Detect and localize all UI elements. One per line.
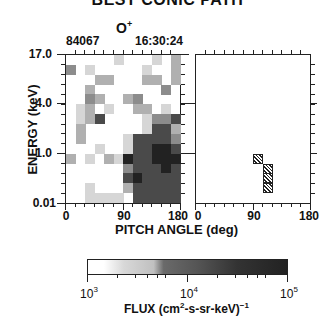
- y-tick-4: 4.0: [4, 96, 52, 110]
- y-minor-tick: [61, 94, 65, 95]
- heatmap-cell: [133, 173, 143, 183]
- x-minor-tick: [84, 50, 85, 54]
- y-minor-tick: [61, 163, 65, 164]
- y-minor-tick: [61, 173, 65, 174]
- heatmap-cell: [161, 124, 171, 134]
- x-minor-tick: [94, 204, 95, 207]
- heatmap-cell: [142, 183, 152, 193]
- x-minor-tick: [103, 204, 104, 207]
- y-minor-tick: [181, 114, 185, 115]
- y-major-tick: [57, 203, 65, 204]
- heatmap-cell: [104, 154, 114, 164]
- x-minor-tick: [233, 50, 234, 54]
- heatmap-cell: [152, 55, 162, 65]
- heatmap-cell: [152, 144, 162, 154]
- heatmap-cell: [161, 173, 171, 183]
- heatmap-cell: [104, 75, 114, 85]
- heatmap-cell: [85, 183, 95, 193]
- heatmap-cell: [152, 173, 162, 183]
- heatmap-cell: [142, 124, 152, 134]
- y-major-tick: [181, 54, 189, 55]
- heatmap-cell: [85, 104, 95, 114]
- heatmap-cell: [104, 104, 114, 114]
- colorbar-label-1e3: 103: [80, 285, 98, 301]
- time-stamp: 16:30:24: [135, 34, 183, 48]
- date-code: 84067: [66, 34, 99, 48]
- y-minor-tick: [311, 104, 315, 105]
- y-minor-tick: [61, 193, 65, 194]
- heatmap-cell: [133, 144, 143, 154]
- x-minor-tick: [243, 50, 244, 54]
- heatmap-cell: [171, 173, 181, 183]
- heatmap-cell: [161, 114, 171, 124]
- x-minor-tick: [262, 204, 263, 207]
- heatmap-cell: [95, 75, 105, 85]
- x-minor-tick: [262, 50, 263, 54]
- x-tick-90-left: 90: [117, 209, 130, 223]
- x-minor-tick: [84, 204, 85, 207]
- y-minor-tick: [61, 153, 65, 154]
- heatmap-cell: [123, 173, 133, 183]
- heatmap-cell: [171, 164, 181, 174]
- cb-base: 10: [180, 287, 193, 301]
- heatmap-cell: [66, 154, 76, 164]
- heatmap-cell: [76, 134, 86, 144]
- heatmap-cell: [133, 193, 143, 203]
- colorbar-title: FLUX (cm2-s-sr-keV)−1: [124, 301, 249, 316]
- x-minor-tick: [170, 204, 171, 207]
- heatmap-cell: [142, 114, 152, 124]
- y-minor-tick: [311, 163, 315, 164]
- conic-path-cell: [263, 164, 273, 174]
- y-minor-tick: [181, 104, 185, 105]
- y-minor-tick: [311, 64, 315, 65]
- heatmap-cell: [152, 75, 162, 85]
- y-minor-tick: [61, 104, 65, 105]
- y-minor-tick: [311, 153, 315, 154]
- heatmap-cell: [161, 154, 171, 164]
- x-minor-tick: [224, 204, 225, 207]
- x-minor-tick: [123, 204, 124, 207]
- x-minor-tick: [300, 204, 301, 207]
- species-label: O+: [116, 19, 132, 36]
- heatmap-cell: [123, 164, 133, 174]
- cb-title-a: FLUX (cm: [124, 302, 180, 316]
- colorbar-minor-tick: [217, 275, 218, 278]
- colorbar-minor-tick: [235, 275, 236, 278]
- y-axis-title: ENERGY (keV): [25, 70, 40, 190]
- x-minor-tick: [233, 204, 234, 207]
- heatmap-cell: [85, 114, 95, 124]
- heatmap-cell: [152, 183, 162, 193]
- heatmap-cell: [76, 124, 86, 134]
- x-minor-tick: [224, 50, 225, 54]
- y-minor-tick: [311, 84, 315, 85]
- x-minor-tick: [113, 204, 114, 207]
- cb-base: 10: [280, 287, 293, 301]
- x-minor-tick: [243, 204, 244, 207]
- x-tick-180-left: 180: [168, 209, 188, 223]
- x-minor-tick: [272, 50, 273, 54]
- cb-exp: 5: [293, 285, 297, 294]
- y-minor-tick: [311, 183, 315, 184]
- x-minor-tick: [291, 204, 292, 207]
- colorbar-tick: [87, 275, 88, 282]
- flux-heatmap-panel: [65, 54, 181, 204]
- colorbar-minor-tick: [165, 275, 166, 278]
- colorbar-tick: [187, 275, 188, 282]
- y-tick-17: 17.0: [4, 47, 52, 61]
- x-minor-tick: [253, 204, 254, 207]
- x-minor-tick: [103, 50, 104, 54]
- plot-title: BEST CONIC PATH: [0, 0, 335, 9]
- colorbar-label-1e5: 105: [280, 285, 298, 301]
- y-minor-tick: [61, 74, 65, 75]
- heatmap-cell: [114, 55, 124, 65]
- heatmap-cell: [171, 154, 181, 164]
- x-minor-tick: [205, 50, 206, 54]
- heatmap-cell: [66, 65, 76, 75]
- colorbar-minor-tick: [257, 275, 258, 278]
- heatmap-cell: [95, 114, 105, 124]
- colorbar-minor-tick: [157, 275, 158, 278]
- y-minor-tick: [181, 84, 185, 85]
- heatmap-cell: [171, 183, 181, 193]
- heatmap-cell: [161, 134, 171, 144]
- colorbar-minor-tick: [147, 275, 148, 278]
